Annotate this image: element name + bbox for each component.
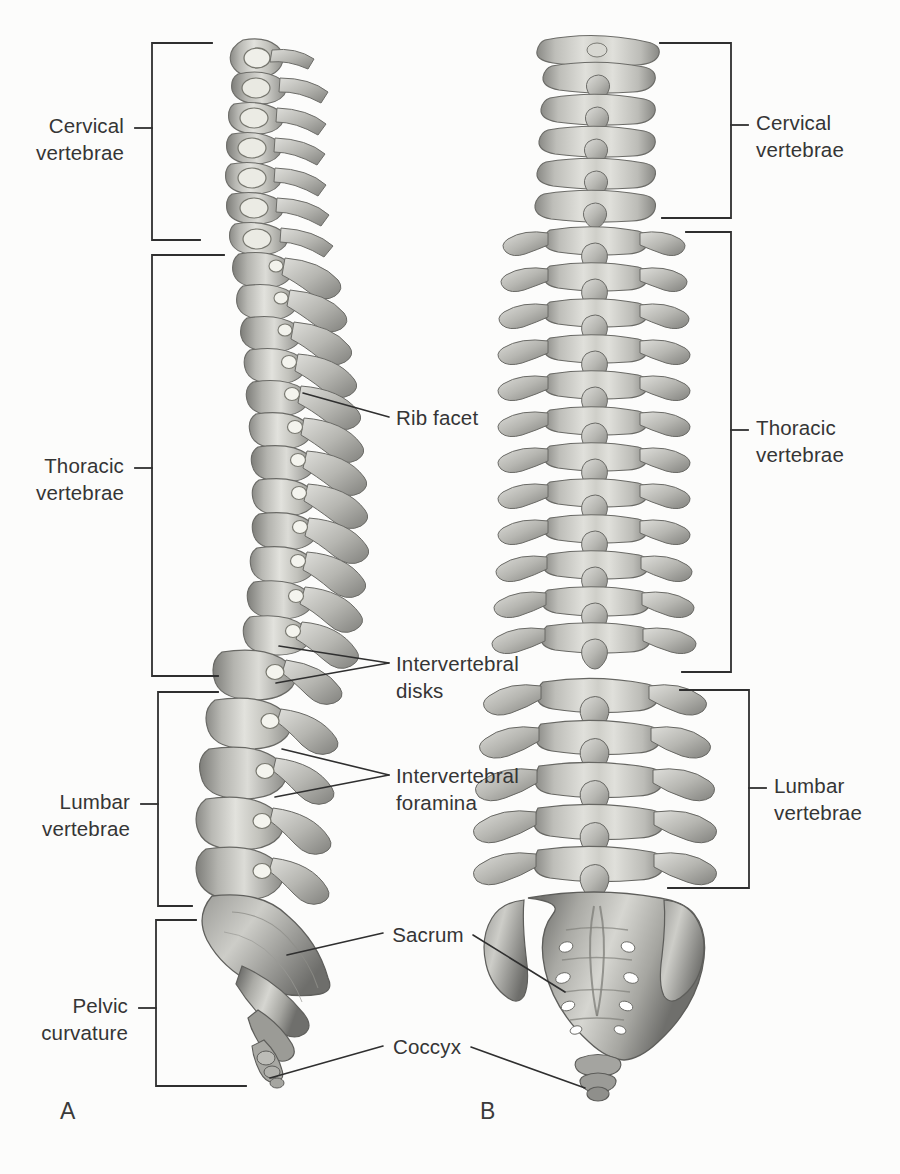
panel-a-lateral-spine xyxy=(196,39,369,1088)
label-lumbar-vertebrae-right: Lumbar vertebrae xyxy=(774,772,900,826)
label-thoracic-vertebrae-left: Thoracic vertebrae xyxy=(8,452,124,506)
anatomy-figure: Cervical vertebrae Thoracic vertebrae Lu… xyxy=(0,0,900,1174)
sacrum-coccyx-posterior xyxy=(484,892,705,1101)
label-coccyx: Coccyx xyxy=(386,1033,468,1060)
panel-letter-b: B xyxy=(480,1098,495,1125)
label-lumbar-vertebrae-left: Lumbar vertebrae xyxy=(12,788,130,842)
panel-b-posterior-spine xyxy=(473,35,716,1101)
label-cervical-vertebrae-left: Cervical vertebrae xyxy=(8,112,124,166)
sacrum-coccyx-lateral xyxy=(202,895,330,1088)
panel-letter-a: A xyxy=(60,1098,75,1125)
label-intervertebral-foramina: Intervertebral foramina xyxy=(396,762,576,816)
label-cervical-vertebrae-right: Cervical vertebrae xyxy=(756,109,896,163)
vertebral-column-illustration xyxy=(0,0,900,1174)
thoracic-vertebrae-posterior xyxy=(492,227,696,669)
label-intervertebral-disks: Intervertebral disks xyxy=(396,650,576,704)
label-thoracic-vertebrae-right: Thoracic vertebrae xyxy=(756,414,896,468)
lumbar-vertebrae-lateral xyxy=(196,650,342,904)
label-pelvic-curvature-left: Pelvic curvature xyxy=(8,992,128,1046)
label-rib-facet: Rib facet xyxy=(396,404,556,431)
cervical-vertebrae-posterior xyxy=(535,35,659,228)
thoracic-vertebrae-lateral xyxy=(233,253,369,669)
cervical-vertebrae-lateral xyxy=(226,39,333,257)
label-sacrum: Sacrum xyxy=(388,921,468,948)
